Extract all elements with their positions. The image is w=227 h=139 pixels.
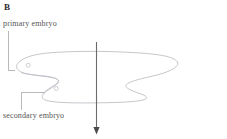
embryo-drawing [0, 0, 227, 139]
secondary-embryo-node [54, 86, 58, 90]
primary-embryo-node [26, 63, 30, 67]
leader-line-primary-embryo [9, 31, 16, 71]
midline-axis-arrowhead [93, 127, 99, 135]
figure-panel-b: B primary embryo secondary embryo [0, 0, 227, 139]
embryo-lobe-divider [23, 73, 59, 94]
leader-lines [9, 31, 46, 110]
midline-axis-arrow [93, 42, 99, 135]
primary-embryo-outline [17, 51, 178, 103]
embryo-outline-group [17, 51, 178, 103]
leader-line-secondary-embryo [22, 93, 46, 111]
